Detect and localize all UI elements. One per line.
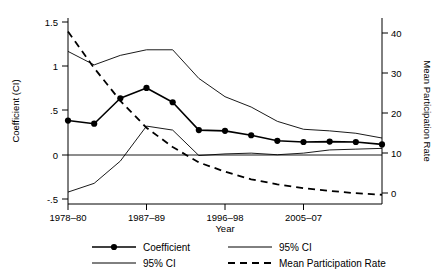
legend-label-mean-participation-rate: Mean Participation Rate <box>279 258 386 269</box>
y-tick-label-1-5: 1.5 <box>45 17 58 28</box>
legend-label-ci-lower: 95% CI <box>143 258 176 269</box>
legend-item-coefficient[interactable]: Coefficient <box>92 242 190 253</box>
data-point-marker <box>379 141 385 147</box>
mean-participation-rate-line <box>68 31 382 194</box>
coefficient-markers <box>65 85 385 148</box>
data-point-marker <box>248 132 254 138</box>
series-group <box>65 31 385 194</box>
x-tick-label-1987-89: 1987–89 <box>128 212 165 223</box>
right-axis-ticks: 40 30 20 10 0 <box>382 28 402 199</box>
data-point-marker <box>353 139 359 145</box>
ci-lower-line <box>68 126 382 192</box>
data-point-marker <box>222 128 228 134</box>
data-point-marker <box>327 139 333 145</box>
y2-tick-label-30: 30 <box>391 68 402 79</box>
y2-axis-title: Mean Participation Rate <box>422 60 433 161</box>
left-axis-ticks: 1.5 1 .5 0 -.5 <box>45 17 68 205</box>
data-point-marker <box>143 85 149 91</box>
y2-tick-label-0: 0 <box>391 188 396 199</box>
y-tick-label-0: 0 <box>53 150 58 161</box>
data-point-marker <box>117 95 123 101</box>
y2-tick-label-10: 10 <box>391 148 402 159</box>
x-axis-ticks: 1978–80 1987–89 1996–98 2005–07 <box>50 204 322 223</box>
coefficient-participation-chart: 1.5 1 .5 0 -.5 Coefficient (CI) 40 30 20… <box>0 0 440 280</box>
data-point-marker <box>65 117 71 123</box>
y2-tick-label-20: 20 <box>391 108 402 119</box>
plot-frame <box>68 18 382 204</box>
data-point-marker <box>196 127 202 133</box>
legend-item-ci-upper[interactable]: 95% CI <box>228 242 312 253</box>
x-axis-title: Year <box>215 223 234 234</box>
data-point-marker <box>274 138 280 144</box>
y2-tick-label-40: 40 <box>391 28 402 39</box>
y-tick-label-neg-0-5: -.5 <box>47 194 58 205</box>
data-point-marker <box>91 121 97 127</box>
x-tick-label-2005-07: 2005–07 <box>285 212 322 223</box>
data-point-marker <box>170 99 176 105</box>
y-tick-label-1: 1 <box>53 61 58 72</box>
x-tick-label-1996-98: 1996–98 <box>207 212 244 223</box>
y-tick-label-0-5: .5 <box>50 105 58 116</box>
data-point-marker <box>300 139 306 145</box>
x-tick-label-1978-80: 1978–80 <box>50 212 87 223</box>
legend: Coefficient 95% CI 95% CI Mean Participa… <box>92 242 386 269</box>
legend-label-ci-upper: 95% CI <box>279 242 312 253</box>
legend-label-coefficient: Coefficient <box>143 242 190 253</box>
legend-item-ci-lower[interactable]: 95% CI <box>92 258 176 269</box>
legend-item-mean-participation-rate[interactable]: Mean Participation Rate <box>228 258 386 269</box>
y-axis-title: Coefficient (CI) <box>10 79 21 142</box>
legend-marker-icon <box>111 244 117 250</box>
